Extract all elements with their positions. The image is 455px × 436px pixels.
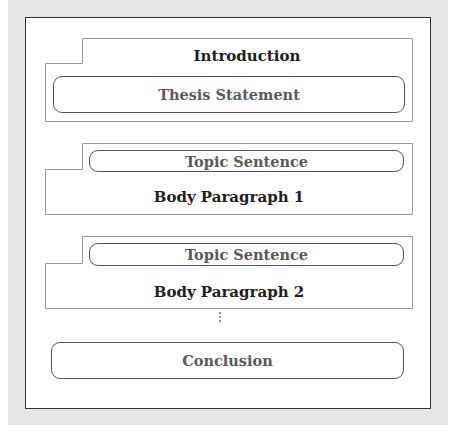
thesis-statement-label: Thesis Statement [158,86,300,103]
topic-sentence-box-2: Topic Sentence [89,243,404,266]
body-paragraph-2-heading: Body Paragraph 2 [45,283,413,301]
topic-sentence-label-1: Topic Sentence [185,153,308,170]
introduction-heading: Introduction [82,47,412,65]
topic-sentence-label-2: Topic Sentence [185,246,308,263]
vertical-ellipsis-icon [214,310,226,324]
conclusion-label: Conclusion [182,352,273,369]
conclusion-box: Conclusion [51,342,404,379]
thesis-statement-box: Thesis Statement [53,76,405,113]
topic-sentence-box-1: Topic Sentence [89,150,404,172]
body-paragraph-1-heading: Body Paragraph 1 [45,188,413,206]
